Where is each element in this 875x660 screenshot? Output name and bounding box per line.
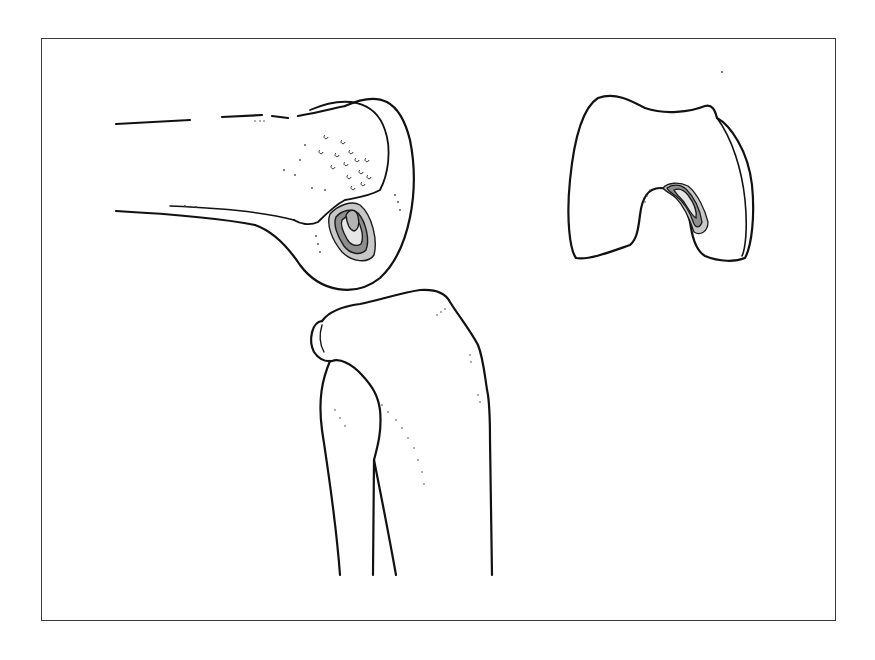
- femur-frontal-view: [568, 96, 753, 261]
- knee-illustration: [0, 0, 875, 660]
- femur-frontal-lesion: [663, 183, 708, 233]
- femur-stipple: [319, 135, 371, 190]
- femur-lateral-view: [116, 99, 414, 290]
- femur-lateral-lesion: [329, 203, 375, 261]
- tibia-fibula-view: [311, 290, 492, 575]
- dotted-contours: [184, 71, 723, 485]
